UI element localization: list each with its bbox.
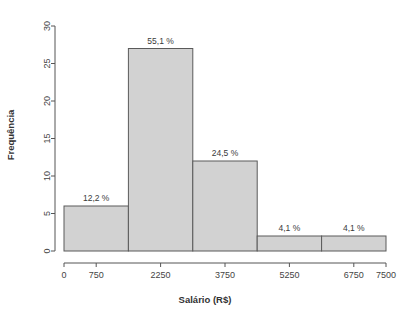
x-axis-tick-label: 6750 <box>344 270 364 280</box>
x-axis-tick-label: 7500 <box>376 270 396 280</box>
x-axis-tick-label: 2250 <box>151 270 171 280</box>
x-axis-tick-label: 750 <box>89 270 104 280</box>
histogram-chart: 12,2 %55,1 %24,5 %4,1 %4,1 % 05101520253… <box>0 0 407 319</box>
x-axis-title: Salário (R$) <box>179 294 232 305</box>
x-axis-tick-label: 0 <box>61 270 66 280</box>
x-axis-tick-label: 3750 <box>215 270 235 280</box>
bar-percentage-label: 4,1 % <box>343 223 365 233</box>
histogram-bar <box>193 161 257 251</box>
x-axis-tick-label: 5250 <box>279 270 299 280</box>
bar-percentage-label: 12,2 % <box>83 193 110 203</box>
y-axis-tick-label: 10 <box>42 171 52 181</box>
histogram-bar <box>128 49 192 252</box>
y-axis-tick-label: 20 <box>42 96 52 106</box>
histogram-svg: 12,2 %55,1 %24,5 %4,1 %4,1 % 05101520253… <box>0 0 407 319</box>
bar-percentage-label: 24,5 % <box>212 148 239 158</box>
histogram-bar <box>64 206 128 251</box>
y-axis-tick-label: 30 <box>42 21 52 31</box>
histogram-bar <box>257 236 321 251</box>
y-axis-tick-label: 15 <box>42 133 52 143</box>
bar-percentage-label: 55,1 % <box>147 36 174 46</box>
y-axis-title: Frequência <box>5 109 16 160</box>
bar-percentage-label: 4,1 % <box>279 223 301 233</box>
y-axis-tick-label: 0 <box>42 248 52 253</box>
histogram-bar <box>322 236 386 251</box>
y-axis-tick-label: 5 <box>42 211 52 216</box>
y-axis-tick-label: 25 <box>42 58 52 68</box>
